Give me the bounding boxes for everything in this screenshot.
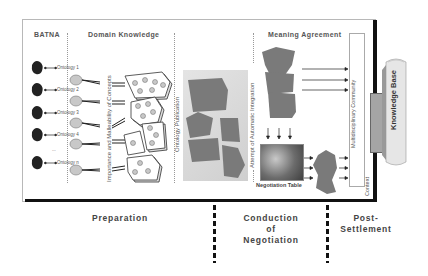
phase-conduction-line3: Negotiation bbox=[231, 235, 311, 246]
phase-conduction-line2: of bbox=[231, 224, 311, 235]
phase-post-settlement: Post- Settlement bbox=[334, 213, 398, 235]
phase-conduction-line1: Conduction bbox=[231, 213, 311, 224]
phase-conduction: Conduction of Negotiation bbox=[231, 213, 311, 246]
phase-divider-2 bbox=[326, 205, 329, 263]
phase-divider-1 bbox=[213, 205, 216, 263]
phase-post-line2: Settlement bbox=[334, 224, 398, 235]
knowledge-base-label: Knowledge Base bbox=[389, 70, 398, 130]
phase-preparation: Preparation bbox=[70, 213, 170, 224]
phase-post-line1: Post- bbox=[334, 213, 398, 224]
